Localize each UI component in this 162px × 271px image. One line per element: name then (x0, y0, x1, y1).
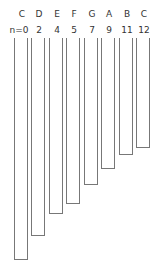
note-label: A (101, 9, 117, 19)
harmonic-number-label: 11 (119, 25, 135, 35)
harmonic-number-label: 5 (66, 25, 82, 35)
harmonic-number-label: n=0 (8, 25, 30, 35)
note-label: F (66, 9, 82, 19)
pipe-tube (49, 38, 63, 214)
pipe-tube (14, 38, 28, 260)
harmonic-number-label: 7 (84, 25, 100, 35)
harmonic-number-label: 4 (49, 25, 65, 35)
note-label: E (49, 9, 65, 19)
note-label: C (136, 9, 152, 19)
note-label: B (119, 9, 135, 19)
note-label: C (14, 9, 30, 19)
pipe-tube (66, 38, 80, 204)
harmonic-number-label: 9 (101, 25, 117, 35)
pipe-tube (101, 38, 115, 169)
harmonic-number-label: 12 (136, 25, 152, 35)
pipe-tube (84, 38, 98, 185)
note-label: G (84, 9, 100, 19)
pipe-tube (136, 38, 150, 148)
pipe-tube (31, 38, 45, 236)
note-label: D (31, 9, 47, 19)
harmonic-number-label: 2 (31, 25, 47, 35)
pipe-tube (119, 38, 133, 155)
